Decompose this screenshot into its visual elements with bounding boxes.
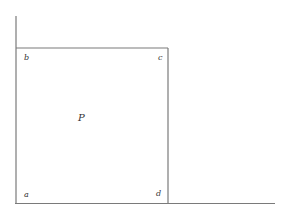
diagram-lines: [0, 0, 286, 218]
label-b: b: [24, 54, 29, 62]
label-c: c: [158, 54, 162, 62]
label-a: a: [24, 191, 29, 199]
label-d: d: [156, 190, 161, 198]
diagram: b c P a d: [0, 0, 286, 218]
label-p: P: [78, 113, 85, 123]
